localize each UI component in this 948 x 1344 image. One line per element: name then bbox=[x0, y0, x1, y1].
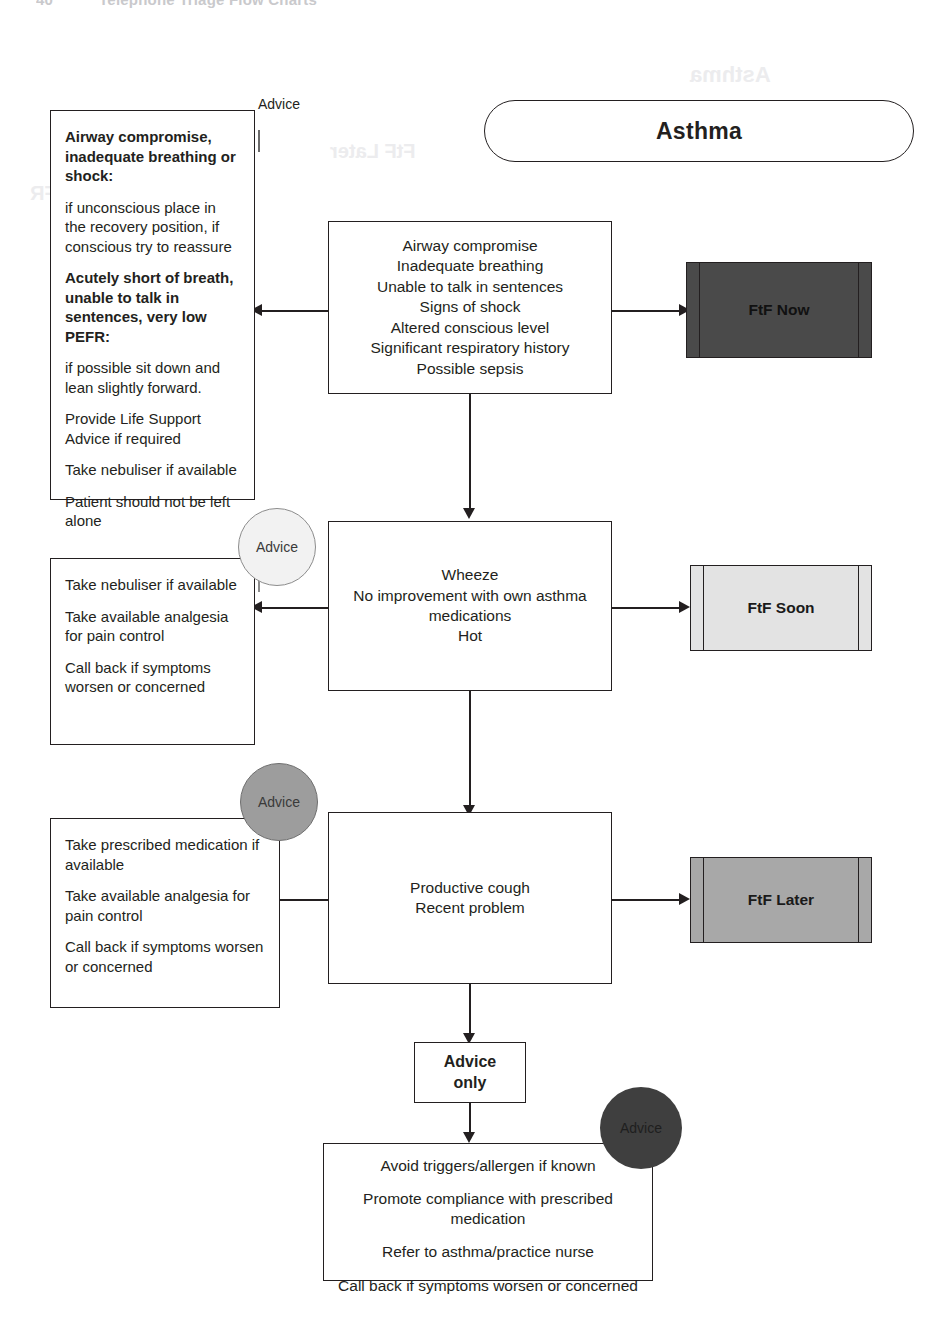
advice-only-box: Advice only bbox=[414, 1042, 526, 1103]
connector-soon-to-later bbox=[469, 690, 471, 807]
advice-line: Take available analgesia for pain contro… bbox=[65, 607, 240, 646]
criteria-line: Altered conscious level bbox=[371, 318, 570, 338]
advice-line: Call back if symptoms worsen or concerne… bbox=[65, 937, 265, 976]
final-advice-box: Avoid triggers/allergen if known Promote… bbox=[323, 1143, 653, 1281]
page-header: 40Telephone Triage Flow Charts bbox=[36, 0, 636, 11]
criteria-box-soon: Wheeze No improvement with own asthma me… bbox=[328, 521, 612, 691]
criteria-line: Airway compromise bbox=[371, 236, 570, 256]
advice-line: Provide Life Support Advice if required bbox=[65, 409, 240, 448]
criteria-line: No improvement with own asthma medicatio… bbox=[339, 586, 601, 627]
page-number: 40 bbox=[36, 0, 53, 8]
criteria-line: Wheeze bbox=[339, 565, 601, 585]
criteria-box-later: Productive cough Recent problem bbox=[328, 812, 612, 984]
outcome-rail-right bbox=[858, 263, 859, 357]
outcome-rail-right bbox=[858, 858, 859, 942]
outcome-rail-left bbox=[703, 566, 704, 650]
advice-line: Take nebuliser if available bbox=[65, 575, 240, 595]
arrowhead-advice-only-down bbox=[463, 1132, 475, 1143]
running-title: Telephone Triage Flow Charts bbox=[99, 0, 317, 8]
outcome-rail-left bbox=[703, 858, 704, 942]
criteria-line: Hot bbox=[339, 626, 601, 646]
connector-soon-to-outcome bbox=[611, 607, 683, 609]
advice-line: if possible sit down and lean slightly f… bbox=[65, 358, 240, 397]
connector-emergency-to-advice bbox=[258, 310, 330, 312]
advice-bubble-1-label: Advice bbox=[258, 96, 300, 112]
outcome-ftf-now[interactable]: FtF Now bbox=[686, 262, 872, 358]
advice-bubble-2[interactable]: Advice bbox=[238, 508, 316, 586]
advice-line: Acutely short of breath, unable to talk … bbox=[65, 268, 240, 346]
arrowhead-soon-outcome bbox=[679, 601, 690, 613]
advice-line: Patient should not be left alone bbox=[65, 492, 240, 531]
advice-panel-later: Take prescribed medication if available … bbox=[50, 818, 280, 1008]
connector-later-to-advice-only bbox=[469, 984, 471, 1036]
criteria-line: Signs of shock bbox=[371, 297, 570, 317]
connector-emergency-to-soon bbox=[469, 393, 471, 510]
criteria-line: Recent problem bbox=[410, 898, 530, 918]
advice-line: Take available analgesia for pain contro… bbox=[65, 886, 265, 925]
outcome-ftf-later[interactable]: FtF Later bbox=[690, 857, 872, 943]
ghost-text-asthma: Asthma bbox=[690, 62, 771, 88]
advice-bubble-1[interactable]: Advice bbox=[238, 63, 320, 145]
criteria-line: Productive cough bbox=[410, 878, 530, 898]
outcome-ftf-later-label: FtF Later bbox=[748, 891, 814, 909]
criteria-line: Inadequate breathing bbox=[371, 256, 570, 276]
advice-only-line-2: only bbox=[444, 1073, 496, 1094]
outcome-ftf-now-label: FtF Now bbox=[748, 301, 809, 319]
arrowhead-emergency-down bbox=[463, 508, 475, 519]
advice-panel-soon: Take nebuliser if available Take availab… bbox=[50, 558, 255, 745]
criteria-box-emergency: Airway compromise Inadequate breathing U… bbox=[328, 221, 612, 394]
final-advice-line: Refer to asthma/practice nurse bbox=[338, 1242, 638, 1262]
connector-later-to-outcome bbox=[611, 899, 683, 901]
advice-line: Take prescribed medication if available bbox=[65, 835, 265, 874]
final-advice-line: Avoid triggers/allergen if known bbox=[338, 1156, 638, 1176]
outcome-ftf-soon-label: FtF Soon bbox=[747, 599, 814, 617]
outcome-rail-right bbox=[858, 566, 859, 650]
chart-title: Asthma bbox=[484, 100, 914, 162]
connector-soon-to-advice bbox=[258, 607, 330, 609]
outcome-ftf-soon[interactable]: FtF Soon bbox=[690, 565, 872, 651]
outcome-rail-left bbox=[699, 263, 700, 357]
criteria-line: Unable to talk in sentences bbox=[371, 277, 570, 297]
advice-line: Call back if symptoms worsen or concerne… bbox=[65, 658, 240, 697]
advice-panel-emergency: Airway compromise, inadequate breathing … bbox=[50, 110, 255, 500]
advice-line: if unconscious place in the recovery pos… bbox=[65, 198, 240, 257]
advice-bubble-3[interactable]: Advice bbox=[240, 763, 318, 841]
advice-line: Take nebuliser if available bbox=[65, 460, 240, 480]
advice-bubble-4-label: Advice bbox=[620, 1120, 662, 1136]
criteria-line: Significant respiratory history bbox=[371, 338, 570, 358]
advice-bubble-3-label: Advice bbox=[258, 794, 300, 810]
arrowhead-later-outcome bbox=[679, 893, 690, 905]
criteria-line: Possible sepsis bbox=[371, 359, 570, 379]
ghost-text-ftf-later: FtF Later bbox=[330, 140, 416, 163]
final-advice-line: Promote compliance with prescribed medic… bbox=[338, 1189, 638, 1229]
final-advice-line: Call back if symptoms worsen or concerne… bbox=[338, 1276, 638, 1296]
advice-bubble-4[interactable]: Advice bbox=[600, 1087, 682, 1169]
advice-line: Airway compromise, inadequate breathing … bbox=[65, 127, 240, 186]
connector-emergency-to-outcome bbox=[611, 310, 683, 312]
advice-only-line-1: Advice bbox=[444, 1052, 496, 1073]
advice-bubble-2-label: Advice bbox=[256, 539, 298, 555]
